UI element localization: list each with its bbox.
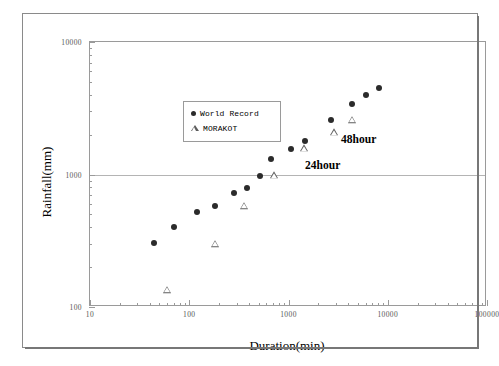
y-tick-label: 100	[70, 303, 82, 312]
y-tick	[89, 195, 92, 196]
x-tick	[388, 300, 389, 306]
filled-circle-icon	[191, 111, 196, 116]
x-tick	[358, 303, 359, 306]
legend-label: World Record	[200, 109, 259, 118]
x-tick	[219, 303, 220, 306]
x-tick	[465, 303, 466, 306]
data-point-morakot	[270, 171, 278, 178]
y-tick	[89, 267, 92, 268]
y-axis-title: Rainfall(mm)	[39, 147, 55, 218]
y-tick	[89, 82, 92, 83]
x-tick	[90, 300, 91, 306]
data-point-morakot	[348, 116, 356, 123]
data-point-world-record	[244, 185, 250, 191]
legend-entry-world-record: World Record	[191, 106, 259, 120]
x-tick-label: 100000	[475, 310, 499, 319]
data-point-world-record	[151, 240, 157, 246]
x-tick	[120, 303, 121, 306]
x-tick	[259, 303, 260, 306]
x-tick-label: 100	[183, 310, 195, 319]
x-tick	[273, 303, 274, 306]
y-tick	[89, 227, 92, 228]
y-tick	[89, 95, 92, 96]
x-tick	[180, 303, 181, 306]
annotation-24hour: 24hour	[305, 159, 340, 171]
y-tick	[89, 48, 92, 49]
x-tick	[472, 303, 473, 306]
data-point-morakot	[240, 202, 248, 209]
x-tick-label: 10	[86, 310, 94, 319]
y-tick	[89, 42, 95, 43]
x-tick	[348, 303, 349, 306]
x-tick	[185, 303, 186, 306]
gridline-1000	[90, 175, 485, 176]
y-tick	[89, 111, 92, 112]
x-tick	[266, 303, 267, 306]
data-point-world-record	[349, 101, 355, 107]
x-tick	[167, 303, 168, 306]
annotation-48hour: 48hour	[341, 133, 376, 145]
x-tick	[448, 303, 449, 306]
x-tick	[289, 300, 290, 306]
y-tick	[89, 181, 92, 182]
data-point-world-record	[194, 209, 200, 215]
x-tick	[378, 303, 379, 306]
x-tick	[237, 303, 238, 306]
x-tick	[457, 303, 458, 306]
data-point-world-record	[328, 117, 334, 123]
x-tick	[159, 303, 160, 306]
data-point-world-record	[363, 92, 369, 98]
x-tick	[482, 303, 483, 306]
data-point-world-record	[288, 146, 294, 152]
x-tick	[435, 303, 436, 306]
y-tick-label: 1000	[65, 170, 82, 179]
data-point-morakot	[330, 128, 338, 135]
y-tick	[89, 135, 92, 136]
x-tick	[383, 303, 384, 306]
x-tick	[487, 300, 488, 306]
x-tick	[418, 303, 419, 306]
legend-entry-morakot: MORAKOT	[191, 121, 237, 135]
x-tick	[137, 303, 138, 306]
data-point-morakot	[163, 286, 171, 293]
y-tick-label: 10000	[61, 38, 82, 47]
x-tick	[477, 303, 478, 306]
y-tick	[89, 175, 95, 176]
data-point-world-record	[212, 203, 218, 209]
y-tick	[89, 307, 95, 308]
x-tick	[336, 303, 337, 306]
data-point-world-record	[171, 224, 177, 230]
x-tick	[249, 303, 250, 306]
data-point-morakot	[300, 144, 308, 151]
y-tick	[89, 187, 92, 188]
x-tick	[174, 303, 175, 306]
x-tick	[318, 303, 319, 306]
data-point-morakot	[211, 240, 219, 247]
x-tick-label: 10000	[377, 310, 398, 319]
y-tick	[89, 63, 92, 64]
data-point-world-record	[268, 156, 274, 162]
legend: World Record MORAKOT	[183, 101, 281, 142]
x-tick	[366, 303, 367, 306]
x-tick	[372, 303, 373, 306]
y-tick	[89, 71, 92, 72]
y-tick	[89, 55, 92, 56]
figure-border: Rainfall(mm) Duration(min) 1010010001000…	[22, 13, 478, 348]
legend-label: MORAKOT	[203, 124, 237, 133]
x-tick	[189, 300, 190, 306]
data-point-world-record	[231, 190, 237, 196]
x-tick-label: 1000	[280, 310, 297, 319]
y-tick	[89, 204, 92, 205]
x-axis-title: Duration(min)	[249, 338, 324, 354]
y-tick	[89, 244, 92, 245]
x-tick	[279, 303, 280, 306]
y-tick	[89, 214, 92, 215]
data-point-world-record	[257, 173, 263, 179]
x-tick	[150, 303, 151, 306]
data-point-world-record	[376, 85, 382, 91]
plot-area: 10100100010000100000100100010000 48hour2…	[89, 41, 486, 306]
x-tick	[284, 303, 285, 306]
open-triangle-icon	[191, 125, 199, 131]
data-point-world-record	[302, 138, 308, 144]
